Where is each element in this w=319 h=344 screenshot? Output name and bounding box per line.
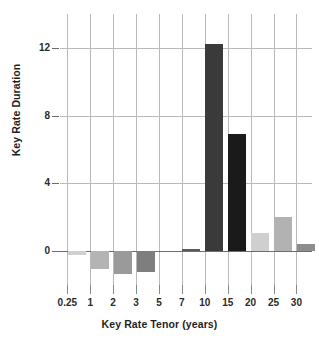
- x-tick-mark: [136, 285, 137, 294]
- y-tick-mark: [52, 116, 59, 117]
- gridline-vertical: [136, 14, 137, 285]
- bar: [251, 233, 269, 251]
- y-tick-label: 12: [24, 43, 50, 53]
- y-tick-mark: [52, 183, 59, 184]
- bar: [274, 217, 292, 251]
- y-tick-mark: [52, 48, 59, 49]
- gridline-horizontal: [60, 183, 312, 184]
- bar: [205, 44, 223, 251]
- x-tick-mark: [182, 285, 183, 294]
- bar: [68, 251, 86, 255]
- x-tick-mark: [205, 285, 206, 294]
- x-tick-mark: [296, 285, 297, 294]
- gridline-vertical: [113, 14, 114, 285]
- gridline-vertical: [90, 14, 91, 285]
- bar: [114, 251, 132, 274]
- gridline-vertical: [159, 14, 160, 285]
- y-axis-title: Key Rate Duration: [10, 40, 22, 180]
- x-tick-mark: [228, 285, 229, 294]
- x-tick-mark: [159, 285, 160, 294]
- y-tick-label: 8: [24, 111, 50, 121]
- gridline-horizontal: [60, 116, 312, 117]
- gridline-horizontal: [60, 48, 312, 49]
- bar: [137, 251, 155, 272]
- gridline-vertical: [182, 14, 183, 285]
- x-tick-label: 30: [278, 298, 314, 308]
- gridline-vertical: [67, 14, 68, 285]
- x-tick-mark: [274, 285, 275, 294]
- bar: [228, 134, 246, 251]
- key-rate-duration-bar-chart: Key Rate Duration Key Rate Tenor (years)…: [0, 0, 319, 344]
- y-tick-mark: [52, 251, 59, 252]
- x-tick-mark: [90, 285, 91, 294]
- x-tick-mark: [113, 285, 114, 294]
- bar: [91, 251, 109, 269]
- y-tick-label: 4: [24, 178, 50, 188]
- plot-area: [60, 14, 312, 285]
- x-tick-mark: [67, 285, 68, 294]
- bar: [297, 244, 315, 251]
- x-tick-mark: [251, 285, 252, 294]
- y-tick-label: 0: [24, 246, 50, 256]
- x-axis-title: Key Rate Tenor (years): [0, 318, 319, 330]
- bar: [182, 249, 200, 251]
